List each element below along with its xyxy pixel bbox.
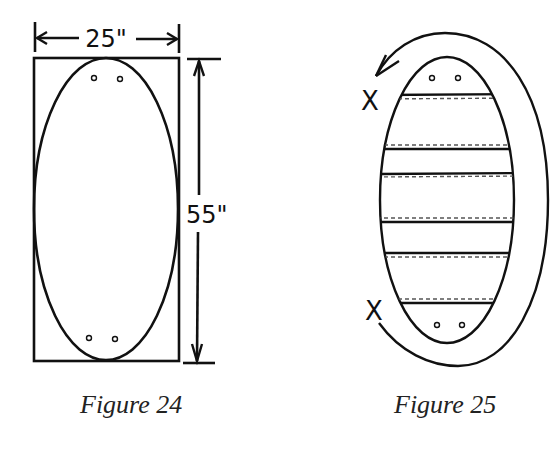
width-label: 25" bbox=[85, 25, 127, 53]
oval-shape bbox=[34, 58, 178, 360]
figure-24-caption: Figure 24 bbox=[80, 390, 182, 420]
bottom-holes-25 bbox=[435, 323, 465, 328]
figure-25-drawing bbox=[370, 33, 548, 366]
top-holes bbox=[92, 76, 123, 82]
height-label: 55" bbox=[186, 201, 228, 229]
x-mark-top: X bbox=[361, 86, 379, 116]
wrap-arrow-arc bbox=[376, 33, 548, 366]
figure-24-drawing bbox=[34, 22, 221, 363]
slatted-oval bbox=[380, 57, 514, 343]
bottom-holes bbox=[87, 336, 118, 342]
x-mark-bottom: X bbox=[365, 296, 383, 326]
figure-25-caption: Figure 25 bbox=[394, 390, 496, 420]
top-holes-25 bbox=[430, 76, 461, 81]
